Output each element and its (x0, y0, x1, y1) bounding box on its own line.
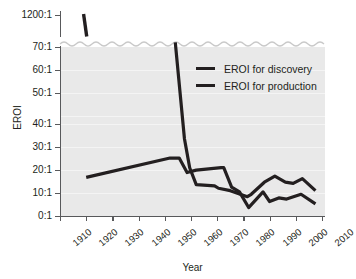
y-tick-30 (55, 147, 60, 148)
x-tick-label-1940: 1940 (150, 227, 173, 248)
x-tick-label-1970: 1970 (228, 227, 251, 248)
x-tick-1970 (217, 216, 218, 221)
y-tick-label-0: 0:1 (38, 211, 52, 221)
y-tick-label-30: 30:1 (33, 142, 52, 152)
y-tick-label-1200-wrap: 1200:1 (0, 10, 52, 20)
y-tick-label-50: 50:1 (33, 88, 52, 98)
y-tick-label-20: 20:1 (33, 165, 52, 175)
axis-break-squiggle-icon (58, 38, 328, 48)
x-tick-1940 (139, 216, 140, 221)
y-tick-label-50-wrap: 50:1 (0, 88, 52, 98)
y-tick-20 (55, 170, 60, 171)
y-tick-label-60-wrap: 60:1 (0, 65, 52, 75)
y-tick-label-40: 40:1 (33, 119, 52, 129)
gridline-40 (60, 124, 325, 125)
x-tick-1930 (112, 216, 113, 221)
legend: EROI for discovery EROI for production (196, 60, 317, 94)
y-tick-label-70: 70:1 (33, 42, 52, 52)
x-tick-1920 (86, 216, 87, 221)
x-axis-title: Year (60, 262, 325, 273)
x-tick-label-1990: 1990 (281, 227, 304, 248)
legend-label-discovery: EROI for discovery (224, 63, 312, 75)
y-tick-60 (55, 70, 60, 71)
y-tick-label-30-wrap: 30:1 (0, 142, 52, 152)
legend-item-production[interactable]: EROI for production (196, 77, 317, 94)
y-tick-label-60: 60:1 (33, 65, 52, 75)
y-axis-title: EROI (12, 88, 23, 148)
x-axis-line (60, 216, 325, 217)
legend-swatch-discovery (196, 67, 215, 70)
legend-item-discovery[interactable]: EROI for discovery (196, 60, 317, 77)
x-tick-1910 (60, 216, 61, 221)
x-tick-label-1910: 1910 (71, 227, 94, 248)
y-tick-1200 (55, 15, 60, 16)
y-tick-40 (55, 124, 60, 125)
y-tick-10 (55, 193, 60, 194)
x-tick-2000 (296, 216, 297, 221)
y-tick-label-0-wrap: 0:1 (0, 211, 52, 221)
x-tick-2010 (322, 216, 323, 221)
gridline-10 (60, 193, 325, 194)
x-tick-label-1960: 1960 (202, 227, 225, 248)
x-tick-label-1930: 1930 (123, 227, 146, 248)
legend-label-production: EROI for production (224, 80, 317, 92)
gridline-20 (60, 170, 325, 171)
y-tick-label-20-wrap: 20:1 (0, 165, 52, 175)
legend-swatch-production (196, 84, 215, 87)
gridline-45 (60, 116, 325, 117)
x-tick-1990 (270, 216, 271, 221)
x-tick-1960 (191, 216, 192, 221)
gridline-30 (60, 147, 325, 148)
y-tick-label-10: 10:1 (33, 188, 52, 198)
y-tick-label-40-wrap: 40:1 (0, 119, 52, 129)
y-tick-50 (55, 93, 60, 94)
y-tick-label-10-wrap: 10:1 (0, 188, 52, 198)
x-tick-label-2000: 2000 (307, 227, 330, 248)
x-tick-1950 (165, 216, 166, 221)
x-tick-label-1950: 1950 (176, 227, 199, 248)
x-tick-label-1920: 1920 (97, 227, 120, 248)
x-tick-label-2010: 2010 (333, 227, 356, 248)
y-tick-label-1200: 1200:1 (21, 10, 52, 20)
x-tick-label-1980: 1980 (254, 227, 277, 248)
x-tick-1980 (243, 216, 244, 221)
y-tick-label-70-wrap: 70:1 (0, 42, 52, 52)
